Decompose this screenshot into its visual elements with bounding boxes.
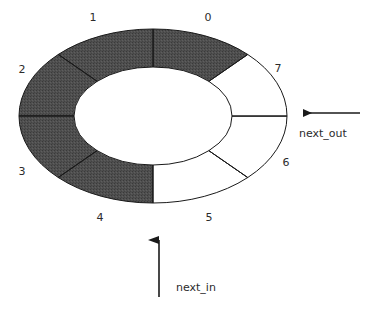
segment-label-7: 7 <box>275 62 282 75</box>
segment-dividers <box>19 29 287 203</box>
ring-buffer-diagram: 01234567 next_outnext_in <box>0 0 367 309</box>
segment-label-1: 1 <box>90 11 97 24</box>
segment-label-2: 2 <box>19 63 26 76</box>
diagram-canvas: 01234567 next_outnext_in <box>0 0 367 309</box>
segment-label-6: 6 <box>283 156 290 169</box>
next-in-label: next_in <box>176 281 216 294</box>
next-out-label: next_out <box>299 127 348 140</box>
segment-label-0: 0 <box>205 11 212 24</box>
segment-label-5: 5 <box>206 211 213 224</box>
segment-label-4: 4 <box>97 211 104 224</box>
segment-label-3: 3 <box>19 165 26 178</box>
